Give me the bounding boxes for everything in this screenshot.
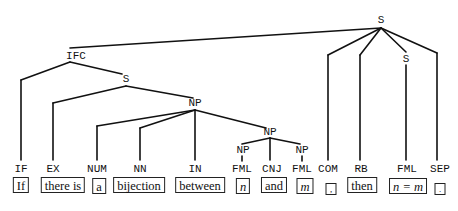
- tag-cnj: CNJ: [262, 163, 282, 175]
- word-if: If: [13, 177, 29, 193]
- node-np-n: NP: [236, 144, 249, 156]
- node-np-coord: NP: [263, 126, 276, 138]
- word-there-is: there is: [41, 177, 85, 193]
- tag-if: IF: [14, 163, 27, 175]
- node-s-right: S: [403, 53, 410, 65]
- node-ifc: IFC: [66, 50, 86, 62]
- tag-in: IN: [188, 163, 201, 175]
- tag-fml-m: FML: [292, 163, 312, 175]
- tag-sep: SEP: [430, 163, 450, 175]
- word-then: then: [347, 177, 377, 193]
- tag-num: NUM: [87, 163, 107, 175]
- node-root-s: S: [378, 14, 385, 26]
- word-n: n: [236, 178, 250, 194]
- word-a: a: [92, 178, 106, 194]
- tag-fml-eq: FML: [397, 163, 417, 175]
- word-m: m: [296, 178, 313, 194]
- tag-com: COM: [318, 163, 338, 175]
- tag-rb: RB: [354, 163, 367, 175]
- word-comma: ,: [326, 183, 337, 195]
- node-s-inner: S: [123, 73, 130, 85]
- word-n-eq-m: n = m: [389, 178, 427, 194]
- word-and: and: [261, 177, 287, 193]
- word-between: between: [175, 177, 225, 193]
- tag-ex: EX: [46, 163, 59, 175]
- tag-fml-n: FML: [232, 163, 252, 175]
- node-np-main: NP: [188, 97, 201, 109]
- word-bijection: bijection: [113, 177, 165, 193]
- tag-nn: NN: [133, 163, 146, 175]
- word-period: .: [435, 183, 446, 195]
- node-np-m: NP: [295, 144, 308, 156]
